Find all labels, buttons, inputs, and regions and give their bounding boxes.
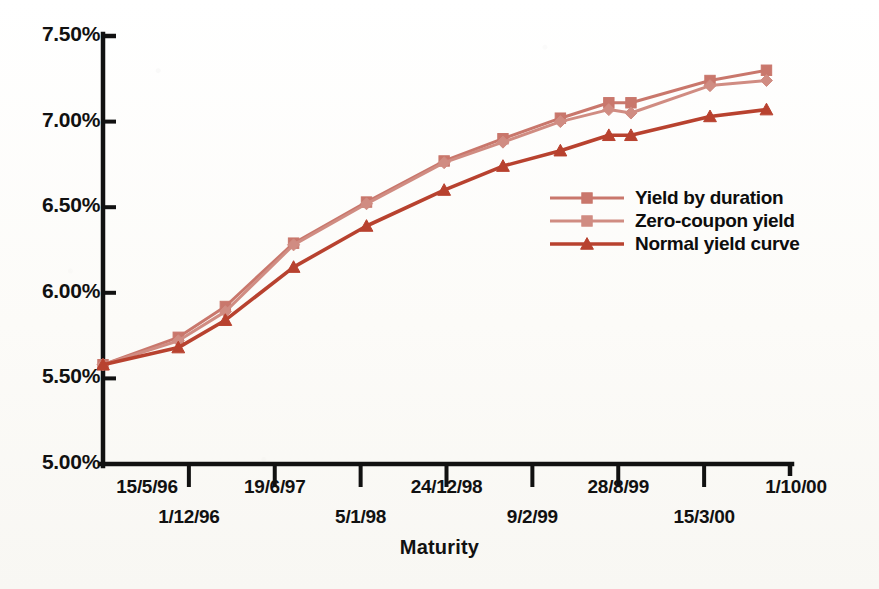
- yield-curve-chart: 7.50%7.00%6.50%6.00%5.50%5.00% 15/5/961/…: [0, 0, 879, 589]
- series-marker: [625, 107, 637, 119]
- legend-item-label: Normal yield curve: [635, 233, 800, 255]
- plot-canvas: [0, 0, 879, 589]
- y-axis-tick-label: 6.00%: [8, 279, 100, 303]
- chart-legend: Yield by durationZero-coupon yieldNormal…: [548, 186, 800, 255]
- x-axis-tick-label: 15/3/00: [673, 506, 734, 528]
- x-axis-title: Maturity: [0, 536, 879, 559]
- legend-item: Normal yield curve: [548, 232, 800, 255]
- axis-lines: [101, 34, 792, 476]
- legend-swatch-square-icon: [548, 211, 626, 231]
- x-axis-tick-label: 1/12/96: [158, 506, 219, 528]
- series-marker: [760, 75, 772, 87]
- x-axis-tick-label: 28/8/99: [588, 476, 649, 498]
- x-axis-tick-label: 5/1/98: [335, 506, 386, 528]
- y-axis-tick-label: 5.50%: [8, 364, 100, 388]
- legend-item-label: Yield by duration: [635, 187, 783, 209]
- y-axis-tick-label: 7.50%: [8, 22, 100, 46]
- x-axis-tick-label: 9/2/99: [507, 506, 558, 528]
- y-axis-tick-label: 5.00%: [8, 450, 100, 474]
- y-axis-tick-label: 6.50%: [8, 193, 100, 217]
- legend-swatch-square-icon: [548, 188, 626, 208]
- x-axis-tick-label: 15/5/96: [116, 476, 177, 498]
- y-axis-tick-label: 7.00%: [8, 108, 100, 132]
- legend-item: Zero-coupon yield: [548, 209, 800, 232]
- legend-item: Yield by duration: [548, 186, 800, 209]
- legend-item-label: Zero-coupon yield: [635, 210, 795, 232]
- x-axis-tick-label: 19/6/97: [244, 476, 305, 498]
- legend-swatch-triangle-icon: [548, 234, 626, 254]
- x-axis-tick-label: 1/10/00: [765, 476, 826, 498]
- x-axis-tick-label: 24/12/98: [411, 476, 483, 498]
